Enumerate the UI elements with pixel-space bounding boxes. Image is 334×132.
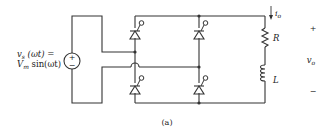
junction-dots — [133, 14, 200, 104]
source-minus: − — [69, 61, 76, 70]
thyristor-right-bottom — [194, 76, 208, 94]
bridge-rectifier-diagram: + − vs (ωt) = Vm sin(ωt) io R L + vo − (… — [0, 0, 334, 132]
inductor-label: L — [272, 75, 279, 85]
current-label: io — [275, 9, 282, 19]
resistor-label: R — [272, 33, 280, 43]
output-plus: + — [310, 24, 317, 33]
output-minus: − — [310, 87, 317, 96]
figure-caption: (a) — [161, 118, 172, 127]
ac-voltage-source: + − — [64, 53, 80, 70]
source-label-line2: Vm sin(ωt) — [17, 59, 61, 70]
current-arrow — [269, 6, 273, 20]
thyristor-left-top — [130, 21, 144, 39]
wires — [72, 16, 268, 103]
thyristor-left-bottom — [130, 76, 144, 94]
output-voltage-label: vo — [307, 55, 316, 66]
thyristor-right-top — [194, 21, 208, 39]
